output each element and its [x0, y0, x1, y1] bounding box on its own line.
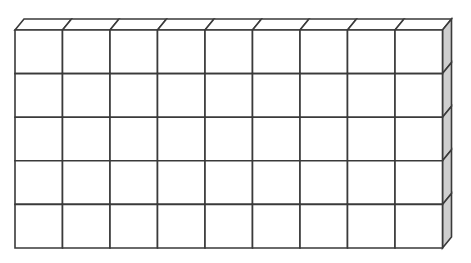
cube-front-face [158, 204, 206, 248]
cube-front-face [205, 161, 253, 205]
cube-front-face [63, 30, 111, 74]
cube-front-face [253, 204, 301, 248]
cube-front-face [300, 117, 348, 161]
cube-side-face [443, 193, 452, 248]
cube-front-face [15, 161, 63, 205]
cube-front-face [348, 117, 396, 161]
cube-front-face [253, 30, 301, 74]
cube-front-face [63, 161, 111, 205]
cube-front-face [205, 74, 253, 118]
cube-front-face [63, 117, 111, 161]
cube-front-face [395, 30, 443, 74]
cube-front-face [348, 161, 396, 205]
cube-front-face [253, 117, 301, 161]
cube-front-face [110, 204, 158, 248]
cube-front-face [300, 204, 348, 248]
cube-front-face [158, 30, 206, 74]
cube-front-face [110, 30, 158, 74]
cube-front-face [348, 74, 396, 118]
cube-front-face [395, 117, 443, 161]
cube-front-face [110, 74, 158, 118]
cube-front-face [158, 117, 206, 161]
cube-front-face [348, 204, 396, 248]
cube-front-face [15, 30, 63, 74]
cube-front-face [205, 30, 253, 74]
cube-front-face [300, 161, 348, 205]
cube-front-face [158, 74, 206, 118]
cube-front-face [110, 161, 158, 205]
cube-front-face [15, 74, 63, 118]
cube-front-face [253, 74, 301, 118]
cube-front-face [15, 204, 63, 248]
cube-front-face [300, 74, 348, 118]
cube-front-face [63, 74, 111, 118]
cube-front-face [158, 161, 206, 205]
cube-front-face [110, 117, 158, 161]
cube-front-face [205, 117, 253, 161]
cube-grid-svg [0, 0, 471, 263]
cube-front-face [348, 30, 396, 74]
cube-front-face [205, 204, 253, 248]
cube-front-face [15, 117, 63, 161]
cube-front-face [395, 161, 443, 205]
cube-front-face [395, 74, 443, 118]
cube-front-face [253, 161, 301, 205]
cube-front-face [395, 204, 443, 248]
cube-grid-figure: Rectangular block built from unit cubes … [0, 0, 471, 263]
cube-front-face [63, 204, 111, 248]
cube-front-face [300, 30, 348, 74]
